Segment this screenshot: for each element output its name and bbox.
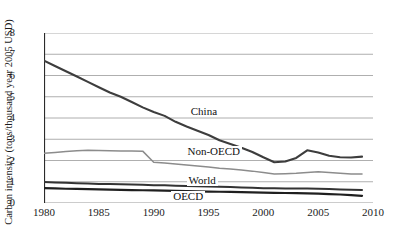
series-label-china: China bbox=[189, 106, 219, 117]
y-tick-label: 6 bbox=[0, 70, 15, 81]
y-tick-label: 4 bbox=[0, 112, 15, 123]
series-label-non-oecd: Non-OECD bbox=[185, 146, 242, 157]
y-tick-label: 8 bbox=[0, 27, 15, 38]
y-tick-label: 7 bbox=[0, 48, 15, 59]
x-tick-label: 1995 bbox=[189, 206, 229, 218]
x-tick-label: 1980 bbox=[24, 206, 64, 218]
x-tick-label: 2010 bbox=[353, 206, 393, 218]
y-tick-label: 0 bbox=[0, 197, 15, 208]
y-tick-label: 1 bbox=[0, 176, 15, 187]
carbon-intensity-line-chart: Carbon intensity (tons/thousand year 200… bbox=[0, 0, 394, 244]
x-tick-label: 1990 bbox=[134, 206, 174, 218]
y-tick-label: 3 bbox=[0, 133, 15, 144]
y-tick-label: 5 bbox=[0, 91, 15, 102]
x-tick-label: 2005 bbox=[298, 206, 338, 218]
series-label-oecd: OECD bbox=[171, 191, 205, 202]
x-tick-label: 2000 bbox=[243, 206, 283, 218]
y-tick-label: 2 bbox=[0, 155, 15, 166]
x-tick-label: 1985 bbox=[79, 206, 119, 218]
series-label-world: World bbox=[187, 175, 218, 186]
